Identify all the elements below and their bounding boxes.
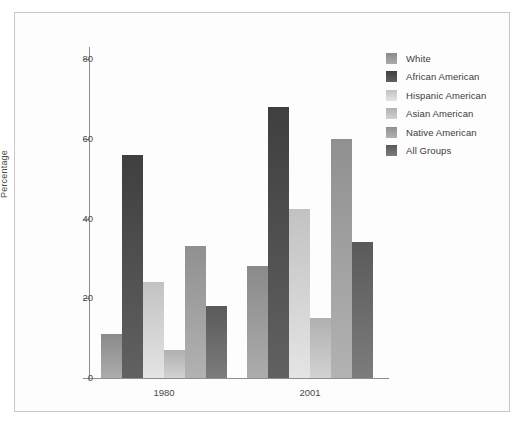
- legend-swatch-icon: [386, 53, 397, 64]
- legend-item: African American: [386, 68, 516, 87]
- legend-item: All Groups: [386, 142, 516, 161]
- legend-item: Native American: [386, 123, 516, 142]
- legend-swatch-icon: [386, 71, 397, 82]
- legend-item-label: White: [406, 53, 431, 64]
- chart-legend: WhiteAfrican AmericanHispanic AmericanAs…: [386, 49, 516, 160]
- figure-frame: Percentage 02040608019802001 WhiteAfrica…: [14, 12, 510, 412]
- bar: [122, 155, 143, 378]
- legend-item-label: Native American: [406, 127, 477, 138]
- legend-item: Hispanic American: [386, 86, 516, 105]
- legend-item-label: African American: [406, 71, 479, 82]
- legend-item: Asian American: [386, 105, 516, 124]
- bar: [247, 266, 268, 378]
- y-axis-tick-label: 0: [53, 372, 93, 383]
- y-axis-tick-label: 40: [53, 213, 93, 224]
- y-axis-tick-label-wrap: 0: [47, 378, 93, 379]
- y-axis-title: Percentage: [0, 150, 9, 198]
- y-axis-tick-label-wrap: 20: [47, 298, 93, 299]
- bar: [268, 107, 289, 378]
- legend-swatch-icon: [386, 127, 397, 138]
- y-axis-tick-label: 60: [53, 133, 93, 144]
- legend-swatch-icon: [386, 145, 397, 156]
- x-axis-line: [89, 378, 389, 379]
- y-axis-tick-label-wrap: 80: [47, 59, 93, 60]
- y-axis-tick-label-wrap: 40: [47, 219, 93, 220]
- legend-item: White: [386, 49, 516, 68]
- bar: [331, 139, 352, 378]
- x-axis-tick-label: 1980: [124, 387, 204, 398]
- bar: [101, 334, 122, 378]
- legend-item-label: All Groups: [406, 145, 451, 156]
- y-axis-tick-label: 20: [53, 292, 93, 303]
- x-axis-tick-label: 2001: [270, 387, 350, 398]
- chart-figure: Percentage 02040608019802001 WhiteAfrica…: [0, 0, 525, 425]
- bar: [289, 209, 310, 378]
- legend-item-label: Hispanic American: [406, 90, 486, 101]
- bar: [310, 318, 331, 378]
- y-axis-tick-label: 80: [53, 53, 93, 64]
- bar: [352, 242, 373, 378]
- y-axis-tick-label-wrap: 60: [47, 139, 93, 140]
- legend-swatch-icon: [386, 90, 397, 101]
- bar: [164, 350, 185, 378]
- legend-swatch-icon: [386, 108, 397, 119]
- bar: [206, 306, 227, 378]
- legend-item-label: Asian American: [406, 108, 473, 119]
- bar: [185, 246, 206, 378]
- bar: [143, 282, 164, 378]
